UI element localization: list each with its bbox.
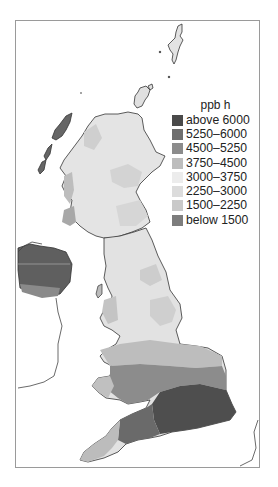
legend-swatch bbox=[172, 172, 183, 183]
legend-item: 4500–5250 bbox=[172, 142, 262, 156]
legend-item: 3000–3750 bbox=[172, 170, 262, 184]
legend-label: 1500–2250 bbox=[186, 199, 247, 212]
uk-map bbox=[0, 0, 278, 487]
legend-item: below 1500 bbox=[172, 213, 262, 227]
legend-label: 5250–6000 bbox=[186, 128, 247, 141]
legend-swatch bbox=[172, 115, 183, 126]
legend-swatch bbox=[172, 186, 183, 197]
orkney-islands bbox=[134, 84, 153, 108]
legend-item: above 6000 bbox=[172, 113, 262, 127]
legend: ppb h above 6000 5250–6000 4500–5250 375… bbox=[172, 97, 262, 227]
legend-label: above 6000 bbox=[186, 114, 250, 127]
legend-label: below 1500 bbox=[186, 214, 248, 227]
isle-of-man bbox=[96, 284, 102, 298]
france-coast bbox=[240, 420, 258, 466]
legend-swatch bbox=[172, 200, 183, 211]
fair-isle-dot bbox=[80, 92, 82, 94]
legend-swatch bbox=[172, 143, 183, 154]
legend-label: 2250–3000 bbox=[186, 185, 247, 198]
legend-item: 2250–3000 bbox=[172, 184, 262, 198]
england-wales bbox=[80, 228, 236, 462]
shetland-islands bbox=[159, 24, 183, 78]
legend-title: ppb h bbox=[178, 97, 253, 113]
legend-label: 4500–5250 bbox=[186, 142, 247, 155]
legend-swatch bbox=[172, 129, 183, 140]
scotland bbox=[60, 112, 165, 238]
northern-ireland bbox=[18, 244, 72, 298]
legend-label: 3750–4500 bbox=[186, 157, 247, 170]
legend-item: 5250–6000 bbox=[172, 127, 262, 141]
ireland-border bbox=[18, 298, 62, 388]
legend-swatch bbox=[172, 215, 183, 226]
legend-swatch bbox=[172, 158, 183, 169]
legend-item: 1500–2250 bbox=[172, 199, 262, 213]
legend-item: 3750–4500 bbox=[172, 156, 262, 170]
legend-label: 3000–3750 bbox=[186, 171, 247, 184]
